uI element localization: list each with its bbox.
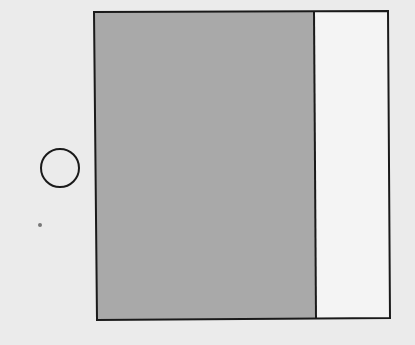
circle-shape xyxy=(41,149,79,187)
diagram-canvas xyxy=(0,0,415,345)
dot-mark xyxy=(38,223,42,227)
unshaded-region xyxy=(314,11,390,319)
shaded-region xyxy=(94,11,316,320)
